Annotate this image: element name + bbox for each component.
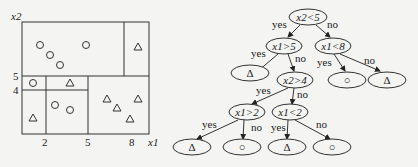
leaf-triangle: Δ — [231, 65, 269, 81]
leaf-triangle: Δ — [268, 139, 306, 155]
leaf-circle: ○ — [223, 139, 261, 155]
triangle-icon — [134, 43, 142, 50]
svg-text:x2>4: x2>4 — [282, 74, 307, 86]
svg-text:Δ: Δ — [383, 74, 390, 86]
y-axis-label: x2 — [10, 10, 22, 22]
x-tick-2: 2 — [42, 136, 48, 148]
edge-x1gt2-no — [243, 120, 244, 139]
svg-text:Δ: Δ — [283, 141, 290, 153]
leaf-circle: ○ — [328, 72, 366, 88]
edge-label-yes: yes — [256, 84, 271, 96]
svg-text:○: ○ — [239, 141, 246, 153]
svg-text:x1<2: x1<2 — [277, 106, 302, 118]
edge-x1lt2-yes — [287, 120, 288, 139]
x-tick-8: 8 — [129, 136, 135, 148]
circle-points — [30, 42, 90, 114]
edge-label-yes: yes — [251, 47, 266, 59]
node-x1-gt-2: x1>2 — [229, 104, 265, 120]
y-tick-4: 4 — [13, 84, 19, 96]
edge-label-no: no — [251, 121, 263, 133]
svg-text:x2<5: x2<5 — [295, 11, 320, 23]
svg-text:○: ○ — [329, 141, 336, 153]
partition-plot: x2 x1 5 4 2 5 8 — [10, 10, 158, 148]
edge-x2gt4-no — [292, 88, 294, 104]
triangle-icon — [126, 115, 134, 122]
node-x1-gt-5: x1>5 — [266, 38, 302, 54]
leaf-circle: ○ — [313, 139, 351, 155]
circle-icon — [47, 52, 54, 59]
svg-text:○: ○ — [344, 74, 351, 86]
node-x2-gt-4: x2>4 — [277, 72, 313, 88]
edge-label-yes: yes — [271, 121, 286, 133]
leaf-triangle: Δ — [173, 139, 211, 155]
decision-tree: yes no yes no yes no yes no yes no yes n… — [173, 9, 406, 155]
edge-x1gt5-no — [288, 54, 294, 71]
svg-text:Δ: Δ — [188, 141, 195, 153]
plot-frame — [22, 22, 149, 134]
x-axis-label: x1 — [147, 136, 158, 148]
node-root: x2<5 — [289, 9, 327, 25]
triangle-icon — [29, 114, 37, 121]
figure: x2 x1 5 4 2 5 8 — [0, 0, 418, 167]
edge-label-no: no — [316, 118, 328, 130]
edge-label-no: no — [364, 54, 376, 66]
triangle-icon — [113, 104, 121, 111]
circle-icon — [67, 107, 74, 114]
leaf-triangle: Δ — [368, 72, 406, 88]
svg-text:x1<8: x1<8 — [320, 40, 345, 52]
edge-label-no: no — [297, 88, 309, 100]
edge-label-no: no — [295, 52, 307, 64]
triangle-icon — [66, 79, 74, 86]
svg-text:x1>2: x1>2 — [234, 106, 259, 118]
circle-icon — [57, 62, 64, 69]
node-x1-lt-8: x1<8 — [315, 38, 351, 54]
circle-icon — [52, 102, 59, 109]
svg-text:x1>5: x1>5 — [271, 40, 296, 52]
triangle-icon — [134, 95, 142, 102]
edge-root-yes — [288, 25, 300, 37]
edge-label-yes: yes — [272, 18, 287, 30]
svg-text:Δ: Δ — [246, 67, 253, 79]
triangle-icon — [103, 95, 111, 102]
edge-x1lt8-yes — [334, 54, 345, 71]
circle-icon — [83, 42, 90, 49]
edge-label-yes: yes — [317, 56, 332, 68]
circle-icon — [30, 80, 37, 87]
y-tick-5: 5 — [13, 70, 19, 82]
node-x1-lt-2: x1<2 — [272, 104, 308, 120]
circle-icon — [37, 42, 44, 49]
x-tick-5: 5 — [85, 136, 91, 148]
edge-label-no: no — [327, 18, 339, 30]
edge-label-yes: yes — [202, 118, 217, 130]
